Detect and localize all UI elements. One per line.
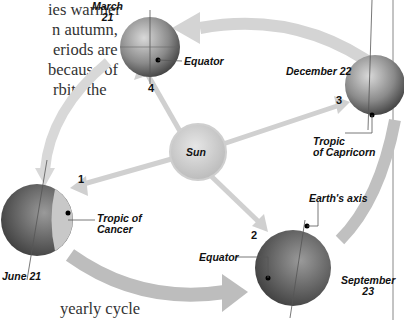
globe-december (345, 0, 404, 133)
equator-label-march: Equator (184, 56, 224, 67)
date-december: December 22 (286, 66, 351, 77)
orbit-diagram (0, 0, 404, 320)
earths-axis-label: Earth's axis (309, 193, 368, 204)
tropic-capricorn-label: Tropic of Capricorn (313, 136, 375, 158)
position-number-4: 4 (148, 82, 154, 94)
tropic-cancer-label: Tropic of Cancer (97, 213, 142, 235)
position-number-2: 2 (251, 229, 257, 241)
position-number-3: 3 (336, 94, 342, 106)
date-june: June 21 (2, 271, 41, 282)
date-september: September 23 (341, 275, 395, 297)
sun-label: Sun (186, 147, 206, 158)
date-march: March 21 (92, 1, 123, 23)
orbit-arrow-dec-to-mar (200, 24, 380, 70)
equator-label-september: Equator (199, 252, 239, 263)
position-number-1: 1 (78, 173, 84, 185)
orbit-arrow-mar-to-jun (45, 62, 108, 170)
globe-march (120, 10, 182, 84)
globe-september (235, 202, 331, 318)
